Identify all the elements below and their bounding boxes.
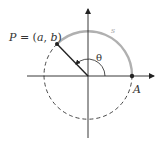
unit-circle-diagram: P = (a, b) s θ A xyxy=(0,0,162,147)
label-theta: θ xyxy=(96,52,102,63)
label-p-comma: , xyxy=(43,31,50,44)
label-point-a: A xyxy=(132,83,141,96)
label-arc-s: s xyxy=(111,26,115,35)
label-point-p: P = (a, b) xyxy=(8,31,62,44)
arc-s xyxy=(57,31,132,76)
label-p-eq: = ( xyxy=(16,31,37,44)
label-p-b: b xyxy=(50,31,57,44)
point-a xyxy=(130,74,134,78)
label-p-close: ) xyxy=(58,31,62,44)
